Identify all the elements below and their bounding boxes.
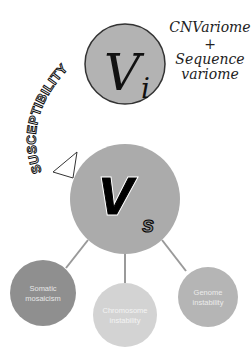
annotation-sequence: Sequence [175,51,244,67]
connector-somatic [66,240,88,268]
child-node-genome-instability: Genome instability [178,267,238,327]
diagram-svg: V i CNVariome + Sequence variome SUSCEPT… [0,0,251,363]
genome-label-2: instability [193,298,224,307]
main-node-vs: V V s [70,144,180,254]
top-node-symbol: V [104,44,145,102]
main-node-symbol-outline: V [98,167,137,225]
susceptibility-text: SUSCEPTIBILITY [24,61,71,176]
top-node-subscript: i [141,72,150,105]
chromosome-circle [93,283,157,347]
somatic-label-2: mosaicism [25,294,60,303]
top-node-vi: V i [85,24,165,105]
arrow-head-icon [53,152,77,178]
diagram-canvas: V i CNVariome + Sequence variome SUSCEPT… [0,0,251,363]
susceptibility-arc-label: SUSCEPTIBILITY [24,61,71,176]
child-node-somatic-mosaicism: Somatic mosaicism [10,260,76,326]
main-node-subscript: s [142,212,154,237]
child-node-chromosome-instability: Chromosome instability [93,283,157,347]
annotation-cnvariome: CNVariome [169,19,250,35]
top-annotation: CNVariome + Sequence variome [169,19,250,82]
chromosome-label-2: instability [110,316,141,325]
annotation-plus: + [204,36,216,52]
chromosome-label-1: Chromosome [102,306,147,315]
connector-genome [162,240,186,271]
annotation-variome: variome [181,66,238,82]
somatic-label-1: Somatic [29,284,56,293]
genome-label-1: Genome [194,288,223,297]
somatic-circle [10,260,76,326]
genome-circle [178,267,238,327]
